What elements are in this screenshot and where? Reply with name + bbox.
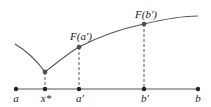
curve-point-b-prime xyxy=(142,22,146,26)
curve-point-x-star xyxy=(43,70,47,74)
function-diagram: a x* a′ b′ b F(a′) F(b′) xyxy=(0,0,211,107)
label-b: b xyxy=(195,92,201,104)
function-curve-left-branch xyxy=(15,44,45,72)
axis-point-b-prime xyxy=(142,87,146,91)
label-f-a-prime: F(a′) xyxy=(69,30,92,43)
axis-point-a-prime xyxy=(77,87,81,91)
label-b-prime: b′ xyxy=(141,92,150,104)
label-x-star: x* xyxy=(40,92,52,104)
axis-point-x-star xyxy=(43,87,47,91)
label-a: a xyxy=(13,92,19,104)
axis-point-a xyxy=(14,87,18,91)
curve-point-a-prime xyxy=(77,45,81,49)
label-f-b-prime: F(b′) xyxy=(134,8,157,21)
axis-point-b xyxy=(196,87,200,91)
function-curve-right-branch xyxy=(45,16,198,72)
label-a-prime: a′ xyxy=(76,92,85,104)
